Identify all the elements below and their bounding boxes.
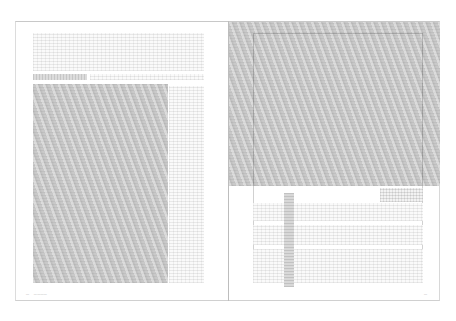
left-page-number: — [26, 292, 29, 296]
gutter-divider [228, 21, 229, 301]
left-image [33, 84, 168, 283]
right-text-row-3 [253, 249, 423, 283]
left-caption-continuation [90, 74, 204, 80]
left-side-text-column [169, 86, 204, 283]
right-text-row-1 [253, 203, 423, 221]
left-caption [33, 74, 87, 80]
right-text-row-2 [253, 225, 423, 245]
right-vertical-strip [284, 193, 294, 287]
right-inner-frame [253, 33, 423, 283]
book-spread: — ———— — [0, 0, 456, 321]
right-folio: — [424, 292, 427, 296]
right-callout-block [380, 188, 423, 202]
left-folio: — ———— [26, 292, 47, 296]
right-page-number: — [424, 292, 427, 296]
left-running-head: ———— [34, 292, 47, 296]
left-top-text-block [33, 33, 204, 71]
